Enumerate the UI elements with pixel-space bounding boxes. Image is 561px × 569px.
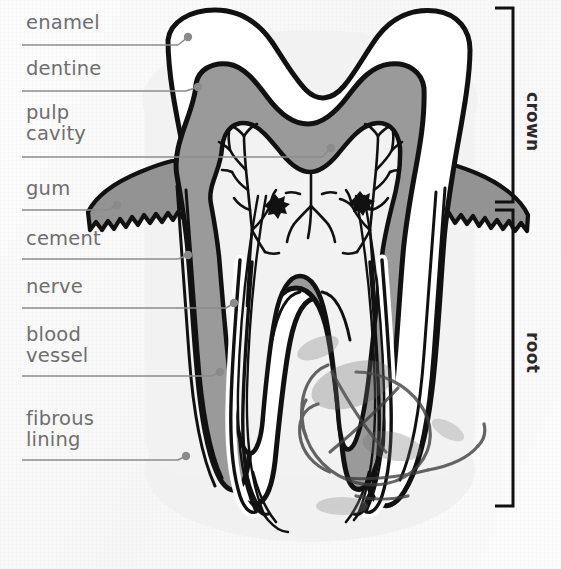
- label-cement: cement: [26, 228, 101, 249]
- side-brackets-group: [495, 8, 513, 506]
- leader-dot-blood-vessel: [216, 368, 224, 376]
- leader-dot-fibrous-lining: [182, 452, 190, 460]
- leader-dot-dentine: [194, 83, 202, 91]
- leader-dot-nerve: [230, 299, 238, 307]
- leader-dot-gum: [113, 201, 121, 209]
- label-pulp-cavity: pulp cavity: [26, 102, 86, 144]
- leader-dot-cement: [184, 251, 192, 259]
- label-blood-vessel: blood vessel: [26, 324, 88, 366]
- tooth-diagram-page: enameldentinepulp cavitygumcementnervebl…: [0, 0, 561, 569]
- label-dentine: dentine: [26, 58, 102, 79]
- label-enamel: enamel: [26, 12, 100, 33]
- side-label-crown: crown: [523, 92, 543, 151]
- leader-dot-pulp-cavity: [327, 144, 335, 152]
- label-fibrous-lining: fibrous lining: [26, 408, 94, 450]
- label-gum: gum: [26, 178, 70, 199]
- label-nerve: nerve: [26, 276, 83, 297]
- tooth-cross-section-diagram: [0, 0, 561, 569]
- leader-dot-enamel: [184, 33, 192, 41]
- bracket-crown: [495, 8, 513, 202]
- side-label-root: root: [523, 332, 543, 373]
- bracket-root: [495, 210, 513, 506]
